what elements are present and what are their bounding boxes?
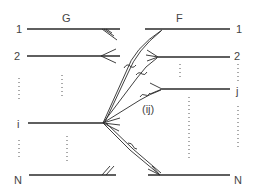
group-label-f: F	[176, 12, 183, 24]
right-fork-2	[146, 50, 158, 61]
left-label-1: 1	[16, 23, 22, 35]
right-label-n: N	[234, 174, 242, 186]
connection-i-to-n	[103, 123, 161, 175]
right-label-j: j	[235, 85, 238, 97]
left-label-i: i	[17, 118, 19, 130]
diagram-canvas: G F 1 2 i N 1 2 j N (ij)	[0, 0, 256, 188]
right-label-1: 1	[236, 23, 242, 35]
connection-label-ij: (ij)	[142, 103, 154, 115]
left-fork-n	[102, 166, 114, 175]
left-label-2: 2	[14, 50, 20, 62]
left-fork-1	[102, 29, 117, 40]
right-label-2: 2	[234, 50, 240, 62]
left-label-n: N	[14, 174, 22, 186]
group-label-g: G	[62, 12, 71, 24]
